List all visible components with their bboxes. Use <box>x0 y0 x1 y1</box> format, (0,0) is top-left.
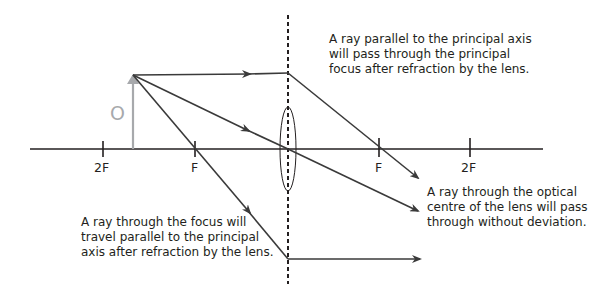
annotation-line: centre of the lens will pass <box>427 200 588 215</box>
object-label: O <box>110 102 125 124</box>
annotation-line: A ray through the focus will <box>81 215 273 230</box>
label-left-f: F <box>191 160 198 175</box>
label-right-f: F <box>375 160 382 175</box>
ray-focus-incident <box>133 75 250 213</box>
lens-ray-diagram: O 2F F F 2F A ray parallel to the princi… <box>0 0 598 295</box>
annotation-line: through without deviation. <box>427 215 588 230</box>
label-left-2f: 2F <box>94 160 109 175</box>
annotation-line: A ray through the optical <box>427 185 588 200</box>
ray-centre-incident-cont <box>247 130 288 149</box>
annotation-line: axis after refraction by the lens. <box>81 245 273 260</box>
annotation-line: travel parallel to the principal <box>81 230 273 245</box>
annotation-line: focus after refraction by the lens. <box>329 62 532 77</box>
annotation-line: A ray parallel to the principal axis <box>329 32 532 47</box>
label-right-2f: 2F <box>461 160 476 175</box>
annotation-parallel-ray: A ray parallel to the principal axis wil… <box>329 32 532 77</box>
ray-parallel-incident-cont <box>248 73 288 74</box>
annotation-centre-ray: A ray through the optical centre of the … <box>427 185 588 230</box>
ray-centre-incident <box>133 75 249 131</box>
ray-parallel-refracted <box>288 73 418 178</box>
ray-centre-emergent <box>288 149 418 211</box>
annotation-line: will pass through the principal <box>329 47 532 62</box>
ray-parallel-incident <box>133 74 250 75</box>
annotation-focus-ray: A ray through the focus will travel para… <box>81 215 273 260</box>
